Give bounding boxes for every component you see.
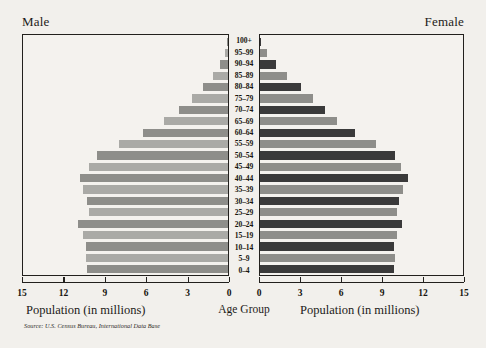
female-bar: [260, 197, 399, 205]
male-bar-row: [23, 70, 228, 81]
age-group-label: 75–79: [229, 92, 259, 103]
axis-tick-label: 12: [59, 288, 69, 298]
female-bar: [260, 83, 301, 91]
male-bar-row: [23, 93, 228, 104]
female-bar-row: [260, 207, 463, 218]
female-bar: [260, 185, 403, 193]
male-bar: [164, 117, 228, 125]
male-bar-row: [23, 252, 228, 263]
male-bar-row: [23, 218, 228, 229]
male-header-label: Male: [22, 14, 50, 30]
female-x-axis: [259, 282, 464, 283]
female-bar-row: [260, 104, 463, 115]
axis-tick-label: 9: [102, 288, 107, 298]
male-bar: [220, 60, 228, 68]
age-group-label: 95–99: [229, 46, 259, 57]
female-bar: [260, 49, 267, 57]
axis-tick: [188, 277, 189, 282]
population-pyramid-figure: Male Female 100+95–9990–9485–8980–8475–7…: [0, 0, 486, 348]
male-bar: [225, 49, 228, 57]
axis-tick-label: 6: [339, 288, 344, 298]
male-bar: [97, 151, 228, 159]
axis-tick-label: 9: [380, 288, 385, 298]
female-bar: [260, 231, 397, 239]
male-x-axis: [22, 282, 229, 283]
male-bar-row: [23, 241, 228, 252]
female-axis-caption: Population (in millions): [300, 303, 419, 318]
male-bar-row: [23, 36, 228, 47]
female-bar: [260, 94, 313, 102]
male-bar-row: [23, 47, 228, 58]
axis-tick: [63, 277, 64, 282]
male-bar-row: [23, 173, 228, 184]
female-bar: [260, 129, 355, 137]
age-group-axis: 100+95–9990–9485–8980–8475–7970–7465–696…: [229, 34, 259, 276]
age-group-label: 65–69: [229, 115, 259, 126]
axis-tick-label: 15: [17, 288, 27, 298]
male-bar: [87, 265, 228, 273]
female-bar: [260, 140, 376, 148]
female-bar-row: [260, 161, 463, 172]
female-bar-row: [260, 82, 463, 93]
female-bar: [260, 60, 276, 68]
age-group-label: 90–94: [229, 58, 259, 69]
female-bar-row: [260, 127, 463, 138]
axis-tick-label: 0: [257, 288, 262, 298]
male-bar: [89, 163, 228, 171]
male-bar-row: [23, 229, 228, 240]
male-bar: [192, 94, 228, 102]
age-group-label: 35–39: [229, 184, 259, 195]
age-group-label: 15–19: [229, 230, 259, 241]
male-bar: [83, 185, 228, 193]
age-group-label: 85–89: [229, 69, 259, 80]
female-bar: [260, 117, 337, 125]
female-bar-row: [260, 47, 463, 58]
female-bar: [260, 220, 402, 228]
age-group-label: 45–49: [229, 161, 259, 172]
female-bar-row: [260, 70, 463, 81]
male-bar-row: [23, 161, 228, 172]
female-bar: [260, 265, 394, 273]
male-bar-row: [23, 184, 228, 195]
male-bar-row: [23, 59, 228, 70]
male-bar-row: [23, 150, 228, 161]
male-bar: [83, 231, 228, 239]
male-bar-row: [23, 195, 228, 206]
female-bar-row: [260, 229, 463, 240]
axis-tick-label: 12: [418, 288, 428, 298]
age-group-label: 55–59: [229, 138, 259, 149]
female-bar: [260, 254, 395, 262]
female-bar-row: [260, 241, 463, 252]
male-bar-rows: [23, 35, 228, 275]
female-bar-row: [260, 150, 463, 161]
male-bar: [80, 174, 228, 182]
female-bar-row: [260, 93, 463, 104]
male-bar: [78, 220, 228, 228]
male-bar-row: [23, 116, 228, 127]
axis-tick: [300, 277, 301, 282]
male-bar: [86, 254, 228, 262]
male-bar: [86, 242, 228, 250]
axis-tick: [146, 277, 147, 282]
female-bar: [260, 38, 261, 46]
source-note: Source: U.S. Census Bureau, Internationa…: [24, 322, 160, 329]
age-group-caption: Age Group: [218, 303, 269, 315]
male-bar: [213, 72, 228, 80]
age-group-label: 60–64: [229, 127, 259, 138]
male-bar-row: [23, 127, 228, 138]
male-plot-panel: [22, 34, 229, 276]
male-bar: [119, 140, 228, 148]
female-bar-row: [260, 264, 463, 275]
axis-tick: [22, 277, 23, 282]
female-bar-row: [260, 138, 463, 149]
female-bar: [260, 151, 395, 159]
male-bar-row: [23, 104, 228, 115]
age-group-label: 0–4: [229, 264, 259, 275]
axis-tick-label: 0: [227, 288, 232, 298]
male-bar-row: [23, 138, 228, 149]
male-bar-row: [23, 207, 228, 218]
axis-tick-label: 6: [144, 288, 149, 298]
female-bar: [260, 174, 408, 182]
female-bar: [260, 106, 325, 114]
axis-tick-label: 15: [459, 288, 469, 298]
